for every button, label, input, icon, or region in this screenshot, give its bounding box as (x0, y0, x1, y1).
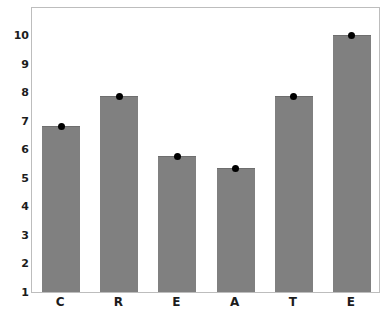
bar-group (42, 126, 80, 292)
y-axis-tick-label: 3 (3, 229, 29, 240)
bar-a-3 (217, 168, 255, 292)
bar-group (275, 96, 313, 292)
y-axis-tick-label: 7 (3, 115, 29, 126)
y-axis-tick-label: 5 (3, 172, 29, 183)
bar-t-4 (275, 96, 313, 292)
y-axis-tick-label: 8 (3, 87, 29, 98)
y-axis-tick-label: 9 (3, 58, 29, 69)
bar-group (333, 35, 371, 292)
bar-e-2 (158, 156, 196, 292)
data-point-marker (232, 165, 239, 172)
x-axis-tick-label: R (114, 296, 123, 308)
bar-group (100, 96, 138, 292)
y-axis: 10987654321 (0, 0, 29, 325)
data-point-marker (58, 123, 65, 130)
x-axis-tick-label: E (347, 296, 355, 308)
x-axis-tick-label: E (172, 296, 180, 308)
y-axis-tick-label: 6 (3, 144, 29, 155)
plot-area (31, 7, 380, 293)
y-axis-tick-label: 1 (3, 287, 29, 298)
bar-group (217, 168, 255, 292)
bar-group (158, 156, 196, 292)
bar-e-5 (333, 35, 371, 292)
x-axis-tick-label: A (230, 296, 239, 308)
bars-layer (32, 8, 379, 292)
y-axis-tick-label: 4 (3, 201, 29, 212)
bar-r-1 (100, 96, 138, 292)
y-axis-tick-label: 2 (3, 258, 29, 269)
bar-chart: 10987654321 CREATE (0, 0, 390, 325)
x-axis-tick-label: T (289, 296, 297, 308)
x-axis-tick-label: C (56, 296, 65, 308)
bar-c-0 (42, 126, 80, 292)
y-axis-tick-label: 10 (3, 30, 29, 41)
chart-title (0, 0, 390, 5)
x-axis: CREATE (31, 296, 380, 320)
